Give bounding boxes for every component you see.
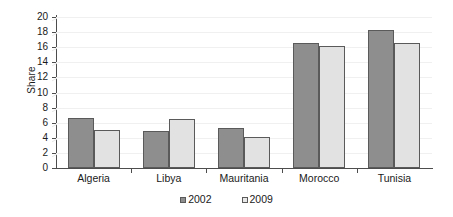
- y-tick-mark: [52, 168, 56, 169]
- gridline-riser: [52, 78, 57, 82]
- y-tick-label: 20: [24, 12, 48, 22]
- bar-tunisia-2002: [368, 30, 394, 168]
- gridline-riser: [52, 93, 57, 97]
- legend-item-2002: 2002: [180, 194, 211, 205]
- bar-libya-2002: [143, 131, 169, 168]
- bar-algeria-2002: [68, 118, 94, 168]
- category-label-morocco: Morocco: [282, 172, 357, 184]
- y-tick-label: 14: [24, 57, 48, 67]
- y-tick-label: 16: [24, 42, 48, 52]
- gridline-riser: [52, 138, 57, 142]
- gridline: [56, 17, 432, 18]
- gridline-riser: [52, 33, 57, 37]
- y-tick-mark: [52, 153, 56, 154]
- y-tick-label: 10: [24, 88, 48, 98]
- category-label-algeria: Algeria: [56, 172, 131, 184]
- bar-algeria-2009: [94, 130, 120, 168]
- y-tick-label: 0: [24, 163, 48, 173]
- y-tick-label: 6: [24, 118, 48, 128]
- legend-label-2009: 2009: [250, 194, 273, 205]
- chart-legend: 20022009: [0, 194, 453, 205]
- y-tick-label: 18: [24, 27, 48, 37]
- gridline-riser: [52, 108, 57, 112]
- y-tick-label: 4: [24, 133, 48, 143]
- bar-chart: Share 02468101214161820 AlgeriaLibyaMaur…: [0, 0, 453, 217]
- bar-morocco-2009: [319, 46, 345, 168]
- gridline-riser: [52, 123, 57, 127]
- category-label-mauritania: Mauritania: [206, 172, 281, 184]
- bar-morocco-2002: [293, 43, 319, 168]
- y-tick-mark: [52, 138, 56, 139]
- y-tick-mark: [52, 17, 56, 18]
- category-label-libya: Libya: [131, 172, 206, 184]
- legend-item-2009: 2009: [242, 194, 273, 205]
- plot-area: [56, 17, 432, 168]
- category-label-tunisia: Tunisia: [357, 172, 432, 184]
- y-tick-label: 8: [24, 103, 48, 113]
- y-tick-mark: [52, 77, 56, 78]
- bar-mauritania-2009: [244, 137, 270, 168]
- gridline-riser: [52, 18, 57, 22]
- y-tick-mark: [52, 93, 56, 94]
- x-axis-line: [56, 168, 433, 169]
- gridline-riser: [52, 48, 57, 52]
- y-tick-mark: [52, 123, 56, 124]
- bar-libya-2009: [169, 119, 195, 168]
- y-tick-mark: [52, 62, 56, 63]
- y-tick-label: 2: [24, 148, 48, 158]
- y-tick-mark: [52, 32, 56, 33]
- gridline-riser: [52, 154, 57, 158]
- gridline-riser: [52, 63, 57, 67]
- legend-label-2002: 2002: [188, 194, 211, 205]
- legend-swatch-2009: [242, 197, 248, 203]
- bar-mauritania-2002: [218, 128, 244, 168]
- legend-swatch-2002: [180, 197, 186, 203]
- y-tick-mark: [52, 108, 56, 109]
- y-tick-label: 12: [24, 72, 48, 82]
- y-tick-mark: [52, 47, 56, 48]
- bar-tunisia-2009: [394, 43, 420, 168]
